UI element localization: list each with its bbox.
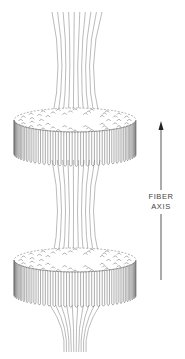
fiber-diagram: FIBER AXIS — [0, 0, 185, 359]
filament — [52, 12, 58, 120]
filament — [90, 160, 95, 262]
filament — [56, 305, 67, 352]
disc-lower — [14, 248, 136, 308]
filament — [52, 160, 58, 262]
filament — [72, 305, 74, 352]
filaments-bottom — [50, 305, 100, 352]
filament — [73, 12, 74, 120]
arrowhead-icon — [159, 121, 164, 130]
filament — [86, 160, 90, 262]
filament — [63, 12, 66, 120]
filament — [68, 12, 70, 120]
axis-label-fiber: FIBER — [148, 192, 173, 201]
filaments-top — [52, 12, 102, 120]
filament — [83, 305, 94, 352]
filament — [63, 160, 66, 262]
filament — [93, 12, 102, 120]
axis-label-axis: AXIS — [151, 202, 171, 211]
filament — [61, 305, 69, 352]
filaments-middle — [52, 160, 100, 262]
filament — [78, 12, 80, 120]
filament — [86, 12, 91, 120]
filament — [86, 305, 100, 352]
filament — [50, 305, 64, 352]
filament — [94, 160, 101, 262]
filament — [90, 12, 97, 120]
filament — [82, 160, 85, 262]
disc-upper — [14, 108, 136, 167]
filament — [82, 12, 86, 120]
filament — [81, 305, 89, 352]
filament — [68, 160, 70, 262]
filament — [57, 160, 61, 262]
filament — [76, 305, 78, 352]
filament — [78, 160, 79, 262]
